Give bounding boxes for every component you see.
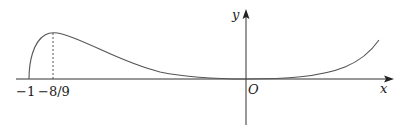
function-graph: y x O −1 −8/9 xyxy=(0,0,406,132)
function-curve xyxy=(29,33,379,79)
tick-label-neg8-9: −8/9 xyxy=(38,84,70,99)
origin-label: O xyxy=(248,82,259,97)
y-axis-label: y xyxy=(231,7,240,22)
x-axis-label: x xyxy=(380,81,388,96)
tick-label-neg1: −1 xyxy=(16,84,35,99)
